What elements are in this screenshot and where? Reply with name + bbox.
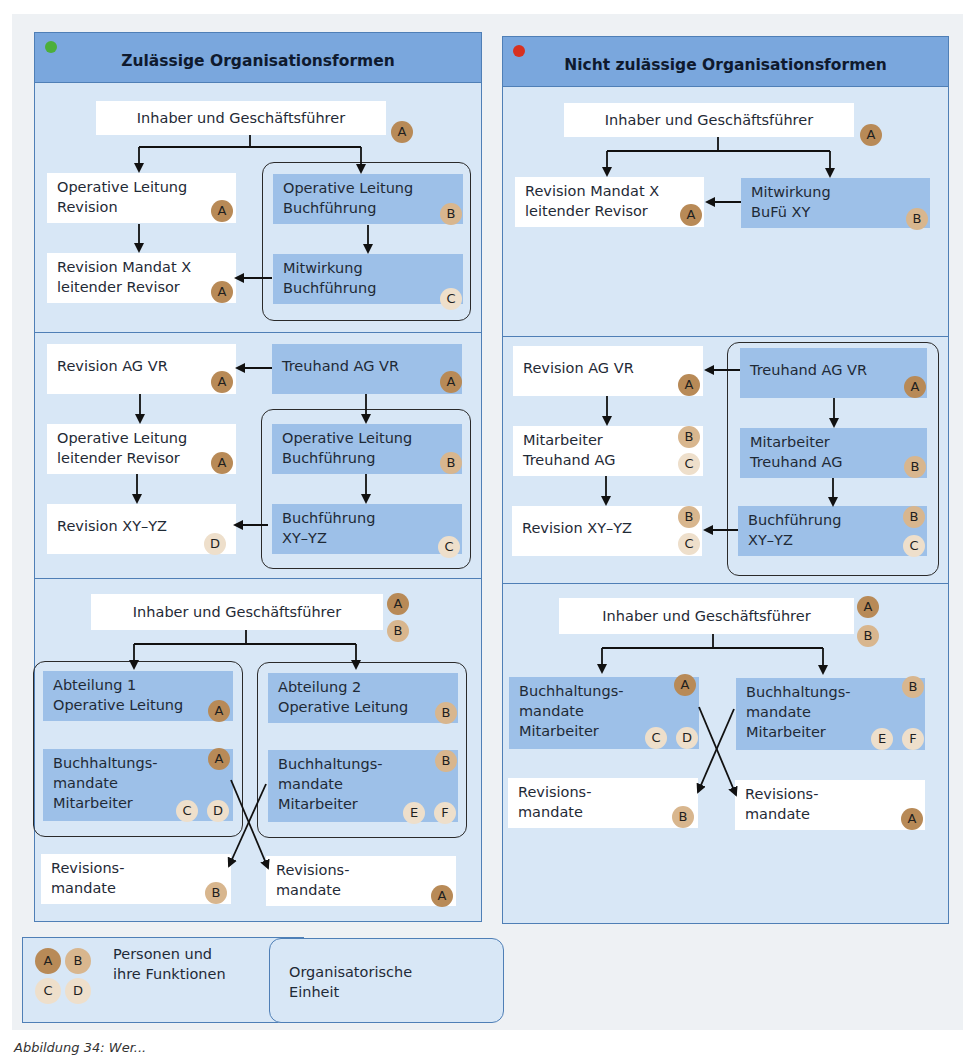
person-badge-f: F — [902, 728, 924, 750]
person-badge-a: A — [211, 281, 233, 303]
person-badge-e: E — [871, 728, 893, 750]
person-badge-c: C — [440, 288, 462, 310]
buchfuehrung-xy-yz-node: Buchführung XY–YZ — [738, 506, 927, 556]
person-badge-a: A — [674, 674, 696, 696]
revision-xy-yz-node: Revision XY–YZ — [512, 506, 702, 556]
owner-node: Inhaber und Geschäftsführer — [559, 598, 854, 634]
person-badge-d: D — [676, 727, 698, 749]
not-allowed-forms-header: Nicht zulässige Organisationsformen — [503, 37, 948, 87]
person-badge-a: A — [208, 700, 230, 722]
legend-badge-a: A — [35, 948, 61, 974]
panel-title: Nicht zulässige Organisationsformen — [564, 56, 887, 74]
person-badge-a: A — [678, 374, 700, 396]
person-badge-c: C — [438, 536, 460, 558]
treuhand-ag-vr-node: Treuhand AG VR — [272, 344, 462, 394]
person-badge-b: B — [906, 208, 928, 230]
person-badge-a: A — [211, 200, 233, 222]
person-badge-b: B — [435, 702, 457, 724]
figure-caption: Abbildung 34: Wer... — [14, 1040, 146, 1055]
person-badge-b: B — [672, 806, 694, 828]
revisionsmandate-node: Revisions- mandate — [266, 856, 456, 906]
person-badge-b: B — [440, 452, 462, 474]
operative-leitung-buchfuehrung-node: Operative Leitung Buchführung — [272, 424, 462, 474]
person-badge-c: C — [176, 800, 198, 822]
person-badge-b: B — [205, 882, 227, 904]
mitarbeiter-treuhand-node: Mitarbeiter Treuhand AG — [740, 428, 927, 478]
buchhaltungsmandate-node: Buchhaltungs- mandate Mitarbeiter — [268, 750, 458, 822]
revision-mandat-node: Revision Mandat X leitender Revisor — [47, 253, 236, 303]
green-status-dot-icon — [45, 41, 57, 53]
person-badge-b: B — [440, 203, 462, 225]
mitwirkung-buchfuehrung-node: Mitwirkung Buchführung — [273, 254, 463, 304]
person-badge-c: C — [678, 453, 700, 475]
allowed-forms-header: Zulässige Organisationsformen — [35, 33, 481, 83]
person-badge-b: B — [435, 750, 457, 772]
section-divider — [503, 336, 948, 337]
buchhaltungsmandate-node: Buchhaltungs- mandate Mitarbeiter — [736, 678, 925, 750]
section-divider — [35, 578, 481, 579]
operative-leitung-revision-node: Operative Leitung Revision — [47, 173, 236, 223]
section-divider — [35, 332, 481, 333]
person-badge-c: C — [645, 727, 667, 749]
owner-node: Inhaber und Geschäftsführer — [91, 594, 383, 630]
treuhand-ag-vr-node: Treuhand AG VR — [740, 348, 927, 398]
buchhaltungsmandate-node: Buchhaltungs- mandate Mitarbeiter — [43, 749, 233, 821]
owner-node: Inhaber und Geschäftsführer — [96, 101, 386, 135]
person-badge-b: B — [678, 506, 700, 528]
persons-legend-label: Personen und ihre Funktionen — [113, 944, 226, 984]
operative-leitung-leitender-revisor-node: Operative Leitung leitender Revisor — [47, 424, 236, 474]
revisionsmandate-node: Revisions- mandate — [508, 778, 698, 828]
unit-legend-label: Organisatorische Einheit — [289, 962, 412, 1002]
revision-mandat-node: Revision Mandat X leitender Revisor — [515, 177, 704, 227]
person-badge-f: F — [434, 802, 456, 824]
person-badge-b: B — [678, 426, 700, 448]
person-badge-a: A — [904, 376, 926, 398]
person-badge-a: A — [387, 593, 409, 615]
person-badge-b: B — [903, 506, 925, 528]
person-badge-a: A — [860, 124, 882, 146]
person-badge-a: A — [211, 371, 233, 393]
revisionsmandate-node: Revisions- mandate — [41, 854, 231, 904]
persons-legend: A B C D Personen und ihre Funktionen — [22, 937, 304, 1023]
revision-ag-vr-node: Revision AG VR — [513, 346, 703, 396]
mitarbeiter-treuhand-node: Mitarbeiter Treuhand AG — [513, 426, 703, 476]
person-badge-c: C — [903, 535, 925, 557]
red-status-dot-icon — [513, 45, 525, 57]
person-badge-a: A — [857, 596, 879, 618]
person-badge-b: B — [904, 456, 926, 478]
person-badge-d: D — [207, 800, 229, 822]
person-badge-a: A — [901, 808, 923, 830]
person-badge-b: B — [857, 625, 879, 647]
revision-ag-vr-node: Revision AG VR — [47, 344, 236, 394]
legend-badge-c: C — [35, 978, 61, 1004]
revisionsmandate-node: Revisions- mandate — [735, 780, 925, 830]
panel-title: Zulässige Organisationsformen — [121, 52, 395, 70]
person-badge-a: A — [391, 121, 413, 143]
buchfuehrung-xy-yz-node: Buchführung XY–YZ — [272, 504, 462, 554]
abteilung-1-node: Abteilung 1 Operative Leitung — [43, 671, 233, 721]
abteilung-2-node: Abteilung 2 Operative Leitung — [268, 673, 458, 723]
owner-node: Inhaber und Geschäftsführer — [564, 103, 854, 137]
section-divider — [503, 583, 948, 584]
person-badge-b: B — [902, 676, 924, 698]
person-badge-a: A — [431, 885, 453, 907]
person-badge-a: A — [208, 748, 230, 770]
legend-badge-d: D — [65, 978, 91, 1004]
buchhaltungsmandate-node: Buchhaltungs- mandate Mitarbeiter — [509, 677, 699, 749]
mitwirkung-bufu-node: Mitwirkung BuFü XY — [741, 178, 930, 228]
person-badge-d: D — [204, 533, 226, 555]
person-badge-a: A — [440, 371, 462, 393]
legend-badge-b: B — [65, 948, 91, 974]
person-badge-b: B — [387, 620, 409, 642]
person-badge-c: C — [678, 533, 700, 555]
person-badge-a: A — [680, 204, 702, 226]
operative-leitung-buchfuehrung-node: Operative Leitung Buchführung — [273, 174, 463, 224]
person-badge-e: E — [403, 802, 425, 824]
person-badge-a: A — [211, 452, 233, 474]
